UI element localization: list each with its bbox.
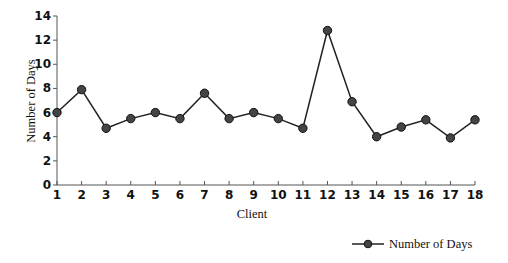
y-tick-label: 6 — [43, 106, 51, 120]
x-tick-label: 3 — [102, 188, 110, 202]
legend-marker-icon — [364, 240, 372, 248]
x-tick-label: 12 — [319, 188, 336, 202]
x-tick-label: 17 — [442, 188, 459, 202]
y-tick-label: 14 — [34, 9, 51, 23]
line-chart: 02468101214 123456789101112131415161718 … — [0, 0, 508, 263]
data-point-marker — [200, 89, 208, 97]
y-axis-label: Number of Days — [24, 59, 38, 142]
x-tick-label: 2 — [77, 188, 85, 202]
y-tick-label: 8 — [43, 81, 51, 95]
y-tick-label: 12 — [34, 33, 51, 47]
data-point-marker — [397, 123, 405, 131]
data-point-marker — [176, 114, 184, 122]
y-tick-label: 4 — [43, 130, 51, 144]
x-tick-label: 9 — [250, 188, 258, 202]
x-tick-label: 18 — [467, 188, 484, 202]
data-point-marker — [422, 116, 430, 124]
legend-label: Number of Days — [389, 237, 472, 251]
x-tick-label: 10 — [270, 188, 287, 202]
data-point-marker — [127, 114, 135, 122]
data-point-marker — [250, 108, 258, 116]
data-point-marker — [446, 134, 454, 142]
data-series — [53, 26, 479, 142]
data-point-marker — [274, 114, 282, 122]
x-tick-label: 5 — [151, 188, 159, 202]
x-tick-label: 6 — [176, 188, 184, 202]
data-point-marker — [471, 116, 479, 124]
y-tick-label: 0 — [43, 178, 51, 192]
x-tick-label: 14 — [368, 188, 385, 202]
x-tick-label: 7 — [200, 188, 208, 202]
x-tick-label: 1 — [53, 188, 61, 202]
x-axis: 123456789101112131415161718 — [53, 181, 484, 202]
data-point-marker — [348, 98, 356, 106]
data-point-marker — [151, 108, 159, 116]
x-tick-label: 16 — [417, 188, 434, 202]
data-point-marker — [323, 26, 331, 34]
data-point-marker — [299, 124, 307, 132]
legend: Number of Days — [352, 237, 472, 251]
data-point-marker — [102, 124, 110, 132]
data-point-marker — [225, 114, 233, 122]
x-axis-label: Client — [237, 207, 268, 221]
data-point-marker — [372, 133, 380, 141]
data-point-marker — [53, 108, 61, 116]
x-tick-label: 13 — [344, 188, 361, 202]
x-tick-label: 4 — [127, 188, 135, 202]
y-tick-label: 2 — [43, 154, 51, 168]
x-tick-label: 15 — [393, 188, 410, 202]
data-point-marker — [77, 85, 85, 93]
x-tick-label: 11 — [295, 188, 312, 202]
series-line — [57, 30, 475, 137]
x-tick-label: 8 — [225, 188, 233, 202]
